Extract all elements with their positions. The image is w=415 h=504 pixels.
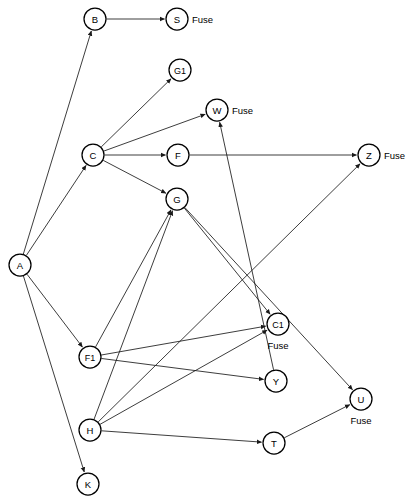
graph-node-C1[interactable]: C1Fuse: [267, 313, 289, 351]
node-annotation-W: Fuse: [232, 105, 253, 116]
node-label-T: T: [271, 438, 277, 449]
graph-node-Y[interactable]: Y: [265, 370, 287, 392]
graph-edge-F1-to-Y: [101, 358, 263, 379]
graph-edge-C-to-G1: [101, 79, 171, 147]
graph-node-B[interactable]: B: [84, 8, 106, 30]
node-annotation-C1: Fuse: [267, 340, 288, 351]
graph-node-F[interactable]: F: [167, 144, 189, 166]
node-label-B: B: [92, 14, 98, 25]
node-label-Y: Y: [273, 376, 280, 387]
node-label-K: K: [85, 479, 92, 490]
graph-edge-A-to-C: [26, 165, 86, 255]
node-label-H: H: [87, 425, 94, 436]
node-annotation-S: Fuse: [192, 14, 213, 25]
graph-node-F1[interactable]: F1: [79, 346, 101, 368]
graph-node-W[interactable]: WFuse: [206, 99, 253, 121]
graph-edge-H-to-Z: [98, 164, 360, 422]
graph-node-G1[interactable]: G1: [169, 59, 191, 81]
node-annotation-Z: Fuse: [384, 150, 405, 161]
graph-node-Z[interactable]: ZFuse: [358, 144, 405, 166]
node-label-C: C: [90, 150, 97, 161]
graph-node-G[interactable]: G: [166, 188, 188, 210]
node-label-F: F: [175, 150, 181, 161]
graph-node-A[interactable]: A: [9, 254, 31, 276]
node-label-U: U: [358, 394, 365, 405]
graph-node-S[interactable]: SFuse: [166, 8, 213, 30]
graph-edge-H-to-G: [94, 211, 173, 420]
node-annotation-U: Fuse: [350, 415, 371, 426]
edge-layer: [23, 19, 360, 472]
node-label-Z: Z: [366, 150, 372, 161]
graph-edge-T-to-U: [284, 405, 350, 438]
node-label-W: W: [213, 105, 222, 116]
graph-edge-A-to-B: [23, 31, 91, 254]
graph-edge-H-to-C1: [100, 330, 267, 424]
graph-node-K[interactable]: K: [77, 473, 99, 495]
node-label-C1: C1: [272, 320, 284, 330]
node-label-S: S: [174, 14, 180, 25]
graph-edge-A-to-K: [23, 276, 84, 472]
node-label-F1: F1: [85, 353, 96, 363]
graph-node-H[interactable]: H: [79, 419, 101, 441]
graph-edge-H-to-T: [101, 431, 261, 442]
graph-edge-G-to-C1: [184, 208, 270, 314]
node-label-A: A: [17, 260, 24, 271]
graph-edge-A-to-F1: [27, 274, 82, 347]
graph-canvas: ABSFuseG1WFuseCFZFuseGC1FuseF1YUFuseHTK: [0, 0, 415, 504]
graph-node-C[interactable]: C: [82, 144, 104, 166]
graph-node-U[interactable]: UFuse: [350, 388, 372, 426]
graph-edge-C-to-W: [104, 114, 205, 151]
graph-edge-C-to-G: [103, 160, 166, 193]
graph-edge-F1-to-G: [96, 210, 171, 347]
graph-node-T[interactable]: T: [263, 432, 285, 454]
node-label-G1: G1: [174, 66, 186, 76]
node-label-G: G: [173, 194, 180, 205]
graph-edge-F1-to-C1: [101, 326, 265, 355]
graph-diagram: ABSFuseG1WFuseCFZFuseGC1FuseF1YUFuseHTK: [0, 0, 415, 504]
